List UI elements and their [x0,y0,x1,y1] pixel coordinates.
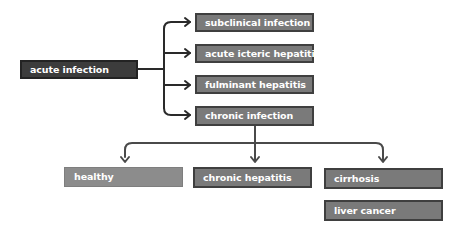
infection-outcome-diagram: acute infection subclinical infection ac… [0,0,468,231]
node-subclinical-infection: subclinical infection [195,13,314,32]
node-fulminant-hepatitis: fulminant hepatitis [195,75,314,94]
node-cirrhosis: cirrhosis [324,168,443,189]
node-healthy: healthy [64,167,183,187]
node-chronic-infection: chronic infection [195,106,314,126]
node-chronic-hepatitis: chronic hepatitis [193,167,312,188]
node-liver-cancer: liver cancer [324,200,443,221]
node-acute-icteric-hepatitis: acute icteric hepatitis [195,44,314,63]
node-acute-infection: acute infection [20,60,138,79]
